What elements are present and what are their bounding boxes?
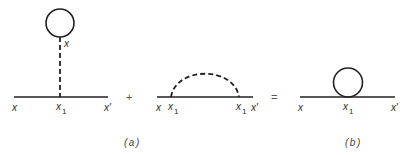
loop-label-right-xprime: x′ xyxy=(390,102,399,113)
diagram-a-tadpole: x x x 1 x′ xyxy=(11,9,112,116)
tadpole-label-right-xprime: x′ xyxy=(103,102,112,113)
loop-circle xyxy=(334,68,363,97)
sunset-label-vertex-left-x: x xyxy=(167,101,174,112)
diagram-a-sunset: x x 1 x 1 x′ xyxy=(155,74,259,116)
tadpole-label-left-x: x xyxy=(11,102,18,113)
plus-operator: + xyxy=(126,91,132,103)
loop-label-vertex-sub: 1 xyxy=(349,107,354,116)
tadpole-label-top-x: x xyxy=(63,38,70,49)
equals-operator: = xyxy=(271,91,277,103)
caption-b: (b) xyxy=(345,137,362,148)
tadpole-loop xyxy=(46,9,74,37)
tadpole-label-vertex-x: x xyxy=(55,101,62,112)
sunset-dashed-arc xyxy=(171,74,239,97)
sunset-label-vertex-right-sub: 1 xyxy=(242,107,247,116)
caption-a: (a) xyxy=(124,137,141,148)
diagram-b-loop: x x 1 x′ xyxy=(297,68,399,116)
loop-label-left-x: x xyxy=(297,102,304,113)
feynman-diagrams: x x x 1 x′ + x x 1 x 1 x′ = x x 1 x′ (a)… xyxy=(0,0,411,155)
tadpole-label-vertex-sub: 1 xyxy=(62,107,67,116)
sunset-label-vertex-left-sub: 1 xyxy=(174,107,179,116)
sunset-label-vertex-right-x: x xyxy=(235,101,242,112)
sunset-label-left-x: x xyxy=(155,102,162,113)
sunset-label-right-xprime: x′ xyxy=(250,102,259,113)
loop-label-vertex-x: x xyxy=(342,101,349,112)
